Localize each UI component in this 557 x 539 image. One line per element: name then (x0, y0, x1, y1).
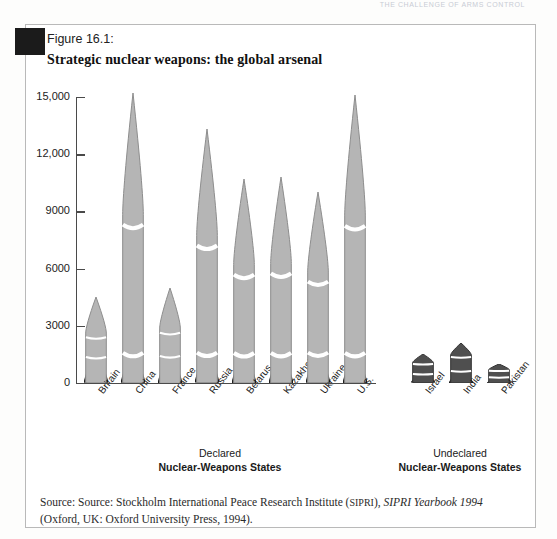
y-axis-tick (76, 211, 85, 212)
missile-bar (306, 192, 330, 383)
missile-bar (269, 177, 293, 383)
missile-bar (343, 95, 367, 383)
y-axis-tick-label: 3000 (10, 319, 70, 331)
corner-mark-icon (15, 28, 45, 55)
y-axis-tick-label: 12,000 (10, 147, 70, 159)
y-axis-tick-label: 9000 (10, 204, 70, 216)
y-axis-tick-label: 15,000 (10, 90, 70, 102)
y-axis-tick-label: 0 (10, 376, 70, 388)
y-axis-tick (76, 269, 85, 270)
source-note: Source: Source: Stockholm International … (40, 494, 510, 529)
y-axis-tick (76, 97, 85, 98)
y-axis-tick-label: 6000 (10, 262, 70, 274)
source-line2: (Oxford, UK: Oxford University Press, 19… (40, 513, 253, 525)
missile-bar (195, 129, 219, 383)
group-caption-declared-line1: Declared (120, 446, 320, 460)
group-caption-declared-line2: Nuclear-Weapons States (120, 460, 320, 474)
missile-bar (232, 179, 256, 383)
source-line1-mid: ), (374, 496, 384, 508)
source-line1-pre: Source: Source: Stockholm International … (40, 496, 349, 508)
source-yearbook-title: SIPRI Yearbook 1994 (384, 496, 483, 508)
missile-bar (84, 297, 108, 383)
source-sipri-acronym: SIPRI (349, 497, 373, 508)
missile-bar (121, 93, 145, 383)
missile-bar (158, 288, 182, 383)
group-caption-undeclared-line2: Nuclear-Weapons States (390, 460, 530, 474)
group-caption-declared: Declared Nuclear-Weapons States (120, 446, 320, 474)
group-caption-undeclared-line1: Undeclared (390, 446, 530, 460)
x-axis-baseline (76, 383, 376, 384)
y-axis-line (76, 97, 77, 383)
group-caption-undeclared: Undeclared Nuclear-Weapons States (390, 446, 530, 474)
page: THE CHALLENGE OF ARMS CONTROL Figure 16.… (0, 0, 557, 539)
y-axis-tick (76, 154, 85, 155)
